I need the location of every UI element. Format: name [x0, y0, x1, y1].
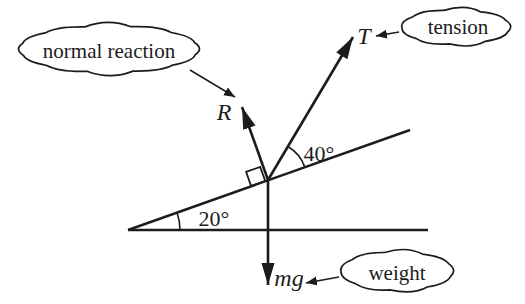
weight-label: mg [274, 265, 303, 291]
force-diagram: R T mg 40° 20° normal reaction tension w… [0, 0, 525, 304]
weight-callout-arrow [306, 277, 339, 283]
tension-angle-label: 40° [304, 141, 335, 166]
incline-angle-label: 20° [199, 206, 230, 231]
weight-callout: weight [306, 250, 454, 292]
normal-reaction-label: R [216, 99, 232, 125]
tension-label: T [357, 23, 372, 49]
normal-reaction-callout: normal reaction [19, 22, 235, 97]
tension-angle-arc [288, 147, 305, 168]
normal-reaction-callout-text: normal reaction [43, 39, 176, 63]
incline-angle-arc [177, 213, 180, 230]
tension-callout: tension [376, 7, 511, 46]
diagram-canvas: R T mg 40° 20° normal reaction tension w… [0, 0, 525, 304]
weight-callout-text: weight [368, 261, 425, 285]
normal-reaction-callout-arrow [190, 70, 235, 97]
tension-callout-text: tension [428, 15, 489, 39]
tension-callout-arrow [376, 32, 399, 36]
